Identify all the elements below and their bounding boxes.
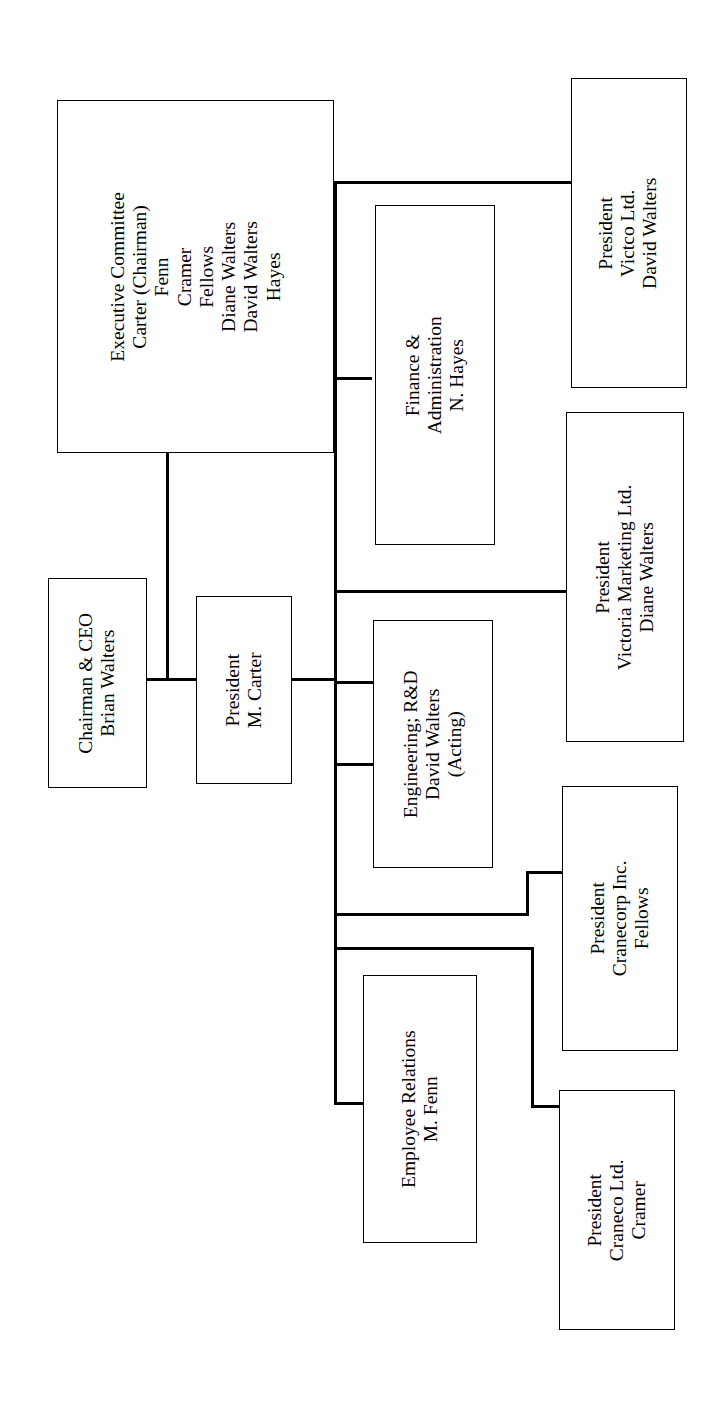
- exec-committee-member-4: Diane Walters: [218, 192, 240, 362]
- exec-committee-member-6: Hayes: [262, 192, 284, 362]
- connector-spine-to-cranecorp-riser: [526, 871, 529, 916]
- node-chairman-ceo[interactable]: Chairman & CEO Brian Walters: [48, 578, 147, 788]
- org-chart-canvas: Executive Committee Carter (Chairman) Fe…: [0, 0, 718, 1401]
- finance-admin-name: N. Hayes: [446, 316, 468, 434]
- cranecorp-name: Fellows: [631, 861, 653, 977]
- cranecorp-role: President: [587, 861, 609, 977]
- node-executive-committee[interactable]: Executive Committee Carter (Chairman) Fe…: [57, 100, 334, 453]
- node-engineering-rd[interactable]: Engineering; R&D David Walters (Acting): [373, 620, 493, 868]
- connector-cranecorp-entry: [526, 871, 562, 874]
- connector-spine-to-victco: [334, 181, 571, 184]
- connector-exec-committee-drop: [166, 452, 169, 680]
- node-employee-relations-text: Employee Relations M. Fenn: [398, 1030, 442, 1188]
- engineering-rd-name: David Walters: [422, 670, 444, 818]
- exec-committee-member-5: David Walters: [240, 192, 262, 362]
- craneco-role: President: [584, 1159, 606, 1261]
- node-finance-administration[interactable]: Finance & Administration N. Hayes: [375, 205, 495, 545]
- engineering-rd-status: (Acting): [444, 670, 466, 818]
- connector-spine-to-cranecorp-run: [334, 913, 529, 916]
- victco-role: President: [596, 177, 618, 288]
- craneco-company: Craneco Ltd.: [606, 1159, 628, 1261]
- node-president-craneco-text: President Craneco Ltd. Cramer: [584, 1159, 651, 1261]
- node-president-victco[interactable]: President Victco Ltd. David Walters: [571, 78, 687, 388]
- node-president-carter-text: President M. Carter: [222, 652, 266, 728]
- victco-company: Victco Ltd.: [618, 177, 640, 288]
- chairman-ceo-role: Chairman & CEO: [75, 613, 97, 754]
- engineering-rd-line1: Engineering; R&D: [400, 670, 422, 818]
- node-finance-administration-text: Finance & Administration N. Hayes: [402, 316, 469, 434]
- exec-committee-member-0: Carter (Chairman): [129, 192, 151, 362]
- employee-relations-line1: Employee Relations: [398, 1030, 420, 1188]
- connector-spine-to-engineering: [334, 681, 373, 684]
- victco-name: David Walters: [640, 177, 662, 288]
- victoria-marketing-name: Diane Walters: [636, 484, 658, 670]
- finance-admin-line2: Administration: [424, 316, 446, 434]
- node-chairman-ceo-text: Chairman & CEO Brian Walters: [75, 613, 119, 754]
- cranecorp-company: Cranecorp Inc.: [609, 861, 631, 977]
- exec-committee-title: Executive Committee: [107, 192, 129, 362]
- connector-spine-to-craneco-riser: [531, 947, 534, 1108]
- employee-relations-name: M. Fenn: [420, 1030, 442, 1188]
- node-president-victoria-marketing[interactable]: President Victoria Marketing Ltd. Diane …: [566, 412, 684, 742]
- node-president-cranecorp-text: President Cranecorp Inc. Fellows: [587, 861, 654, 977]
- node-employee-relations[interactable]: Employee Relations M. Fenn: [363, 975, 477, 1243]
- exec-committee-member-3: Fellows: [196, 192, 218, 362]
- president-carter-name: M. Carter: [244, 652, 266, 728]
- node-president-cranecorp[interactable]: President Cranecorp Inc. Fellows: [562, 786, 678, 1051]
- craneco-name: Cramer: [628, 1159, 650, 1261]
- president-carter-role: President: [222, 652, 244, 728]
- chairman-ceo-name: Brian Walters: [98, 613, 120, 754]
- connector-spine-to-craneco-run: [334, 947, 534, 950]
- node-president-craneco[interactable]: President Craneco Ltd. Cramer: [559, 1090, 675, 1330]
- exec-committee-member-2: Cramer: [173, 192, 195, 362]
- connector-spine-to-victoria-marketing: [334, 590, 566, 593]
- node-president-victoria-marketing-text: President Victoria Marketing Ltd. Diane …: [592, 484, 659, 670]
- exec-committee-member-1: Fenn: [151, 192, 173, 362]
- finance-admin-line1: Finance &: [402, 316, 424, 434]
- node-engineering-rd-text: Engineering; R&D David Walters (Acting): [400, 670, 467, 818]
- connector-spine-to-finance: [334, 377, 372, 380]
- victoria-marketing-role: President: [592, 484, 614, 670]
- connector-main-spine: [334, 181, 337, 1105]
- connector-craneco-entry: [531, 1105, 559, 1108]
- node-president-carter[interactable]: President M. Carter: [196, 596, 292, 784]
- victoria-marketing-company: Victoria Marketing Ltd.: [614, 484, 636, 670]
- node-executive-committee-text: Executive Committee Carter (Chairman) Fe…: [107, 192, 285, 362]
- node-president-victco-text: President Victco Ltd. David Walters: [596, 177, 663, 288]
- connector-spine-tick-lower: [334, 763, 373, 766]
